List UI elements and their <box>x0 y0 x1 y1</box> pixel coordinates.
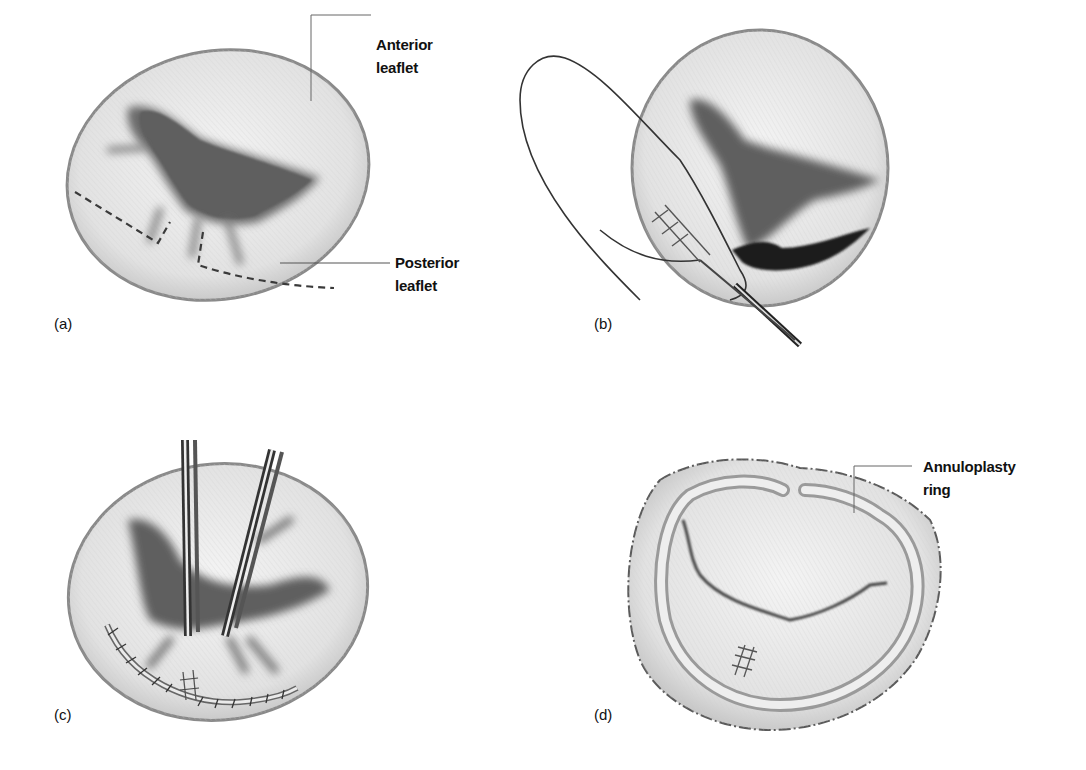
panel-d-illustration <box>628 459 940 730</box>
annotation-line: leaflet <box>376 56 433 79</box>
panel-c-illustration <box>52 440 385 740</box>
panel-label-d: (d) <box>594 705 612 725</box>
panel-label-c: (c) <box>54 705 72 725</box>
panel-a-illustration <box>44 15 393 328</box>
annotation-line: ring <box>923 478 1016 501</box>
panel-label-a: (a) <box>54 314 72 334</box>
annotation-line: Annuloplasty <box>923 455 1016 478</box>
annotation-anterior-leaflet: Anterior leaflet <box>376 33 433 79</box>
annotation-line: Posterior <box>395 251 459 274</box>
annotation-annuloplasty-ring: Annuloplasty ring <box>923 455 1016 501</box>
annotation-line: leaflet <box>395 274 459 297</box>
figure-canvas <box>0 0 1086 770</box>
panel-label-b: (b) <box>594 314 612 334</box>
annotation-posterior-leaflet: Posterior leaflet <box>395 251 459 297</box>
panel-b-illustration <box>520 30 888 345</box>
annotation-line: Anterior <box>376 33 433 56</box>
